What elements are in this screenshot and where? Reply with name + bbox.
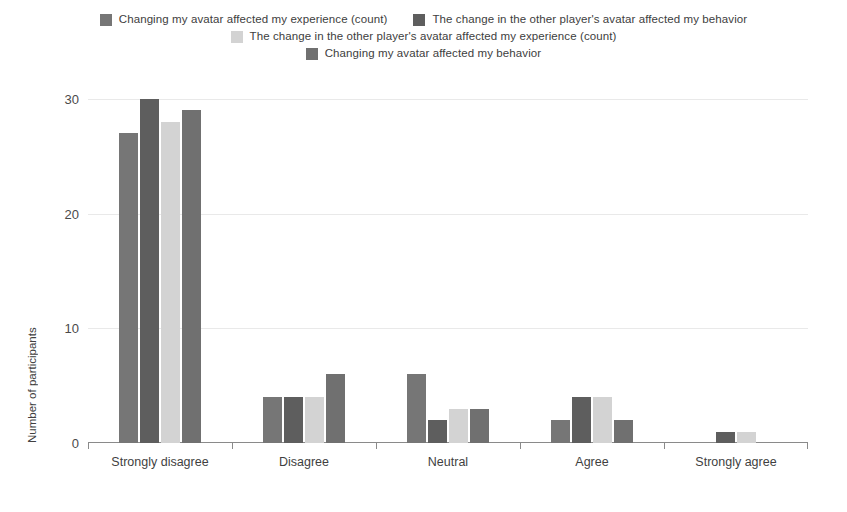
bar-group — [88, 99, 232, 443]
bar[interactable] — [284, 397, 303, 443]
x-axis-label: Neutral — [376, 455, 520, 469]
bar[interactable] — [737, 432, 756, 443]
x-axis-label: Agree — [520, 455, 664, 469]
legend-row-2: The change in the other player's avatar … — [0, 31, 847, 43]
chart-legend: Changing my avatar affected my experienc… — [0, 0, 847, 60]
bar-group — [520, 99, 664, 443]
legend-item-series-1[interactable]: Changing my avatar affected my experienc… — [100, 14, 388, 26]
bar[interactable] — [182, 110, 201, 443]
x-axis-tick — [232, 443, 233, 449]
x-axis-line — [88, 442, 808, 443]
x-axis-label: Disagree — [232, 455, 376, 469]
bar-group — [232, 99, 376, 443]
x-axis-tick — [520, 443, 521, 449]
bar[interactable] — [428, 420, 447, 443]
x-axis-label: Strongly agree — [664, 455, 808, 469]
bar-groups — [88, 99, 808, 443]
legend-label-series-2: The change in the other player's avatar … — [432, 14, 747, 26]
x-axis-tick — [664, 443, 665, 449]
legend-row-1: Changing my avatar affected my experienc… — [0, 14, 847, 26]
y-tick-label-20: 20 — [65, 206, 79, 221]
legend-swatch-icon-series-1 — [100, 14, 112, 26]
bar[interactable] — [614, 420, 633, 443]
legend-label-series-1: Changing my avatar affected my experienc… — [119, 14, 388, 26]
gridline-10 — [88, 328, 808, 329]
x-axis-tick — [376, 443, 377, 449]
bar[interactable] — [161, 122, 180, 443]
legend-swatch-icon-series-3 — [231, 31, 243, 43]
bar[interactable] — [305, 397, 324, 443]
legend-item-series-4[interactable]: Changing my avatar affected my behavior — [306, 48, 542, 60]
gridline-20 — [88, 214, 808, 215]
y-axis-title: Number of participants — [26, 99, 38, 443]
bar-chart: Number of participants 0102030 Strongly … — [0, 0, 847, 512]
bar[interactable] — [716, 432, 735, 443]
legend-item-series-3[interactable]: The change in the other player's avatar … — [231, 31, 617, 43]
bar[interactable] — [551, 420, 570, 443]
bar[interactable] — [593, 397, 612, 443]
bar[interactable] — [449, 409, 468, 443]
legend-swatch-icon-series-4 — [306, 48, 318, 60]
x-axis-labels: Strongly disagreeDisagreeNeutralAgreeStr… — [88, 455, 808, 469]
x-axis-label: Strongly disagree — [88, 455, 232, 469]
bar[interactable] — [326, 374, 345, 443]
gridline-30 — [88, 99, 808, 100]
bar[interactable] — [263, 397, 282, 443]
y-tick-label-0: 0 — [72, 436, 79, 451]
bar[interactable] — [407, 374, 426, 443]
legend-row-3: Changing my avatar affected my behavior — [0, 48, 847, 60]
bar[interactable] — [572, 397, 591, 443]
bar[interactable] — [119, 133, 138, 443]
bar-group — [376, 99, 520, 443]
bar-group — [664, 99, 808, 443]
legend-item-series-2[interactable]: The change in the other player's avatar … — [413, 14, 747, 26]
legend-swatch-icon-series-2 — [413, 14, 425, 26]
y-tick-label-30: 30 — [65, 92, 79, 107]
legend-label-series-4: Changing my avatar affected my behavior — [325, 48, 542, 60]
legend-label-series-3: The change in the other player's avatar … — [250, 31, 617, 43]
y-tick-label-10: 10 — [65, 321, 79, 336]
x-axis-tick — [807, 443, 808, 449]
x-axis-tick — [88, 443, 89, 449]
bar[interactable] — [470, 409, 489, 443]
bar[interactable] — [140, 99, 159, 443]
plot-area: 0102030 — [88, 99, 808, 443]
